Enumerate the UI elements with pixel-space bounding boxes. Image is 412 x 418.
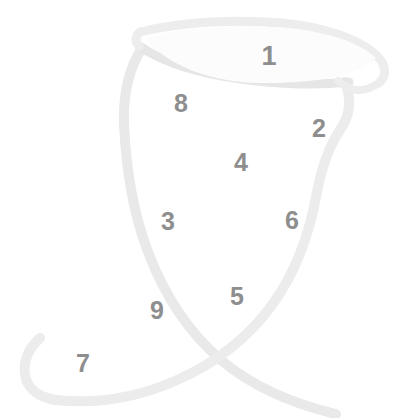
marker-7[interactable]: 7 (76, 351, 90, 376)
marker-2[interactable]: 2 (312, 116, 326, 141)
banana-rim-left-join-path (136, 32, 140, 46)
marker-8[interactable]: 8 (174, 91, 188, 116)
marker-1[interactable]: 1 (261, 43, 276, 70)
banana-outline-drawing (0, 0, 412, 418)
figure-canvas: 1 8 2 4 3 6 5 9 7 (0, 0, 412, 418)
marker-9[interactable]: 9 (150, 298, 164, 323)
banana-right-edge-path (56, 82, 349, 401)
marker-5[interactable]: 5 (230, 284, 244, 309)
banana-right-shoulder-path (338, 81, 379, 90)
marker-3[interactable]: 3 (161, 209, 175, 234)
marker-4[interactable]: 4 (234, 150, 248, 175)
marker-6[interactable]: 6 (285, 208, 299, 233)
banana-bottom-tip-path (25, 338, 56, 400)
